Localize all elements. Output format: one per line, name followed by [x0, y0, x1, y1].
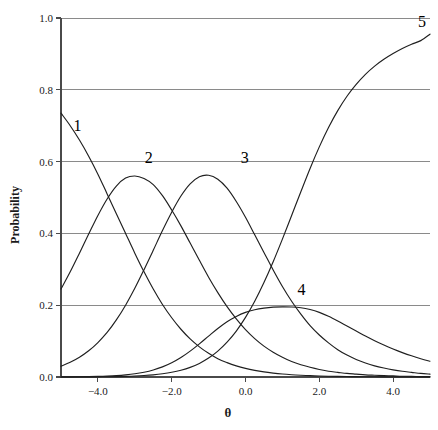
curve-label-5: 5	[418, 13, 426, 30]
data-curves	[61, 34, 430, 377]
curve-labels: 12345	[74, 13, 426, 298]
curve-label-1: 1	[74, 117, 82, 134]
x-axis-title: θ	[225, 405, 232, 420]
y-tick-label: 0.8	[39, 84, 53, 96]
x-tick-label: −4.0	[88, 385, 108, 397]
curve-label-4: 4	[298, 281, 306, 298]
curve-5	[61, 34, 430, 377]
y-tick-label: 0.4	[39, 227, 53, 239]
y-tick-label: 0.0	[39, 371, 53, 383]
y-tick-label: 0.2	[39, 299, 53, 311]
y-tick-label: 0.6	[39, 156, 53, 168]
y-tick-label: 1.0	[39, 12, 53, 24]
x-tick-label: 4.0	[386, 385, 400, 397]
x-tick-label: 0.0	[239, 385, 253, 397]
category-response-curves-figure: −4.0−2.00.02.04.0 0.00.20.40.60.81.0 123…	[0, 0, 438, 430]
x-axis-ticks: −4.0−2.00.02.04.0	[88, 377, 401, 397]
curve-2	[61, 176, 430, 377]
curve-3	[61, 175, 430, 374]
x-tick-label: −2.0	[162, 385, 182, 397]
curve-label-2: 2	[145, 149, 153, 166]
chart-canvas: −4.0−2.00.02.04.0 0.00.20.40.60.81.0 123…	[0, 0, 438, 430]
y-axis-title: Probability	[8, 186, 22, 244]
x-tick-label: 2.0	[312, 385, 326, 397]
axis-spines	[61, 18, 430, 377]
curve-label-3: 3	[241, 149, 249, 166]
y-axis-ticks: 0.00.20.40.60.81.0	[39, 12, 61, 383]
